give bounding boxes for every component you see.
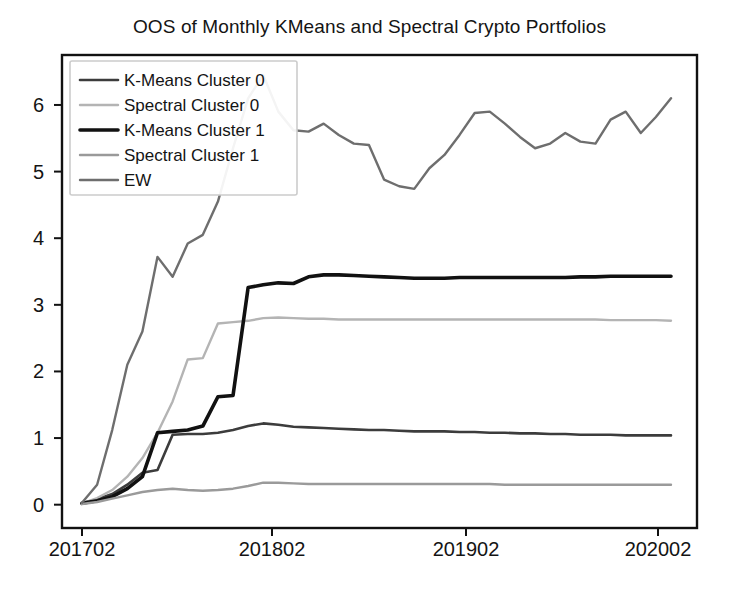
series-line-1 bbox=[82, 317, 671, 503]
x-tick-label: 201902 bbox=[433, 538, 500, 560]
x-tick-label: 201702 bbox=[49, 538, 116, 560]
y-tick-label: 4 bbox=[33, 227, 44, 249]
y-tick-label: 2 bbox=[33, 360, 44, 382]
x-tick-label: 202002 bbox=[625, 538, 692, 560]
y-tick-label: 5 bbox=[33, 161, 44, 183]
y-tick-label: 1 bbox=[33, 427, 44, 449]
x-tick-label: 201802 bbox=[239, 538, 306, 560]
series-line-3 bbox=[82, 483, 671, 504]
y-axis-tick-labels: 0123456 bbox=[33, 94, 44, 516]
chart-figure: OOS of Monthly KMeans and Spectral Crypt… bbox=[0, 0, 739, 593]
legend-label-1: Spectral Cluster 0 bbox=[124, 96, 259, 115]
x-axis-tick-marks bbox=[82, 528, 658, 536]
series-line-0 bbox=[82, 423, 671, 503]
legend-label-0: K-Means Cluster 0 bbox=[124, 71, 265, 90]
y-tick-label: 3 bbox=[33, 294, 44, 316]
chart-legend: K-Means Cluster 0Spectral Cluster 0K-Mea… bbox=[70, 61, 297, 195]
y-tick-label: 0 bbox=[33, 494, 44, 516]
x-axis-tick-labels: 201702201802201902202002 bbox=[49, 538, 692, 560]
legend-label-3: Spectral Cluster 1 bbox=[124, 146, 259, 165]
legend-label-4: EW bbox=[124, 171, 151, 190]
series-line-2 bbox=[82, 275, 671, 504]
plot-area: 0123456 201702201802201902202002 K-Means… bbox=[0, 0, 739, 593]
legend-label-2: K-Means Cluster 1 bbox=[124, 121, 265, 140]
y-tick-label: 6 bbox=[33, 94, 44, 116]
